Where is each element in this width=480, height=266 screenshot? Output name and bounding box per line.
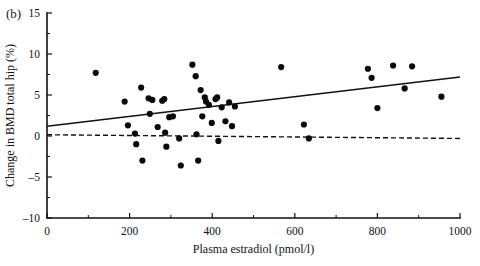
y-tick-label: 15	[29, 7, 41, 19]
data-point	[390, 62, 396, 68]
data-point	[163, 144, 169, 150]
data-point	[176, 135, 182, 141]
reference-line	[47, 135, 460, 139]
chart-svg: –10–505101502004006008001000Plasma estra…	[0, 0, 480, 266]
x-tick-label: 1000	[449, 225, 472, 237]
data-point	[222, 118, 228, 124]
y-tick-label: 5	[34, 89, 40, 101]
data-point	[178, 162, 184, 168]
data-point	[132, 130, 138, 136]
data-point	[215, 138, 221, 144]
data-point	[193, 131, 199, 137]
data-point	[369, 75, 375, 81]
data-point	[301, 121, 307, 127]
x-tick-label: 200	[121, 225, 139, 237]
y-tick-label: 10	[29, 48, 41, 60]
data-point	[409, 63, 415, 69]
data-point	[374, 105, 380, 111]
x-tick-label: 400	[204, 225, 222, 237]
y-tick-label: 0	[34, 130, 40, 142]
data-point	[139, 158, 145, 164]
data-point	[365, 66, 371, 72]
data-point	[206, 102, 212, 108]
scatter-plot: –10–505101502004006008001000Plasma estra…	[0, 0, 480, 266]
data-point	[155, 124, 161, 130]
data-point	[229, 123, 235, 129]
data-point	[125, 122, 131, 128]
x-tick-label: 600	[286, 225, 304, 237]
axis-spines	[47, 13, 460, 218]
data-point	[162, 130, 168, 136]
data-point	[209, 120, 215, 126]
figure-panel: (b) –10–505101502004006008001000Plasma e…	[0, 0, 480, 266]
y-tick-label: –5	[28, 171, 41, 183]
data-point	[149, 97, 155, 103]
data-point	[170, 113, 176, 119]
data-point	[198, 87, 204, 93]
x-axis-title: Plasma estradiol (pmol/l)	[193, 242, 314, 256]
data-point	[93, 70, 99, 76]
data-point	[199, 113, 205, 119]
x-tick-label: 800	[369, 225, 387, 237]
data-point	[161, 96, 167, 102]
data-point	[214, 94, 220, 100]
data-point	[138, 85, 144, 91]
data-point	[133, 141, 139, 147]
y-axis-title: Change in BMD total hip (%)	[3, 44, 17, 187]
data-point	[195, 158, 201, 164]
data-point	[147, 111, 153, 117]
data-point	[193, 73, 199, 79]
data-point	[402, 85, 408, 91]
data-point	[122, 98, 128, 104]
data-point	[278, 64, 284, 70]
data-point	[232, 103, 238, 109]
regression-line	[47, 77, 460, 126]
data-point	[189, 62, 195, 68]
data-point	[219, 104, 225, 110]
data-point	[438, 94, 444, 100]
y-tick-label: –10	[22, 212, 41, 224]
data-point	[226, 99, 232, 105]
data-point	[306, 135, 312, 141]
x-tick-label: 0	[44, 225, 50, 237]
